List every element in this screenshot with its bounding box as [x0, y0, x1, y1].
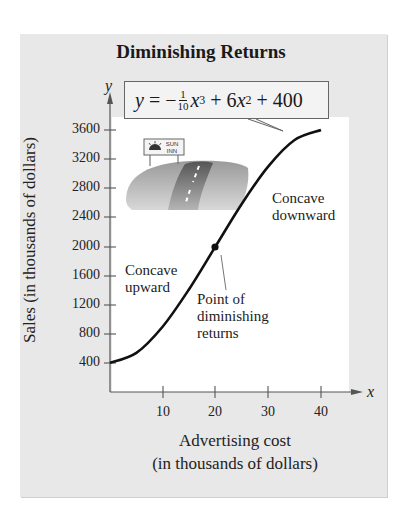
y-tick-label: 3200 [50, 150, 100, 166]
plot-background [112, 117, 349, 392]
inflection-point-marker [211, 243, 218, 250]
annotation-point-of-diminishing-returns: Point of diminishing returns [197, 291, 269, 342]
sign-text-inn: INN [167, 148, 177, 154]
x-axis-symbol: x [367, 383, 374, 400]
y-tick-label: 2000 [50, 238, 100, 254]
fraction-numerator: 1 [179, 89, 187, 101]
sign-text-sun: SUN [166, 141, 179, 147]
x-tick-label: 40 [306, 404, 336, 420]
y-axis-symbol: y [105, 77, 112, 94]
equation-box: y = − 1 10 x3 + 6x2 + 400 [124, 81, 329, 119]
annotation-line: diminishing [197, 308, 269, 325]
annotation-concave-upward: Concave upward [125, 262, 177, 296]
y-axis-label: Sales (in thousands of dollars) [20, 137, 40, 343]
annotation-line: returns [197, 325, 269, 342]
x-axis-label-text1: Advertising cost [179, 431, 291, 451]
x-axis-label-text2: (in thousands of dollars) [152, 454, 318, 474]
equation-rest: + 400 [252, 89, 303, 112]
x-axis-arrow-icon [351, 389, 363, 395]
annotation-line: upward [125, 279, 177, 296]
x-tick-label: 10 [148, 404, 178, 420]
y-tick-label: 400 [50, 354, 100, 370]
y-tick-label: 1600 [50, 267, 100, 283]
y-tick-label: 3600 [50, 121, 100, 137]
annotation-line: downward [272, 207, 335, 224]
equation-term2: x [237, 89, 246, 112]
y-tick-label: 800 [50, 325, 100, 341]
equation-lhs: y [135, 89, 144, 112]
x-tick-label: 30 [253, 404, 283, 420]
y-tick-label: 2400 [50, 208, 100, 224]
annotation-concave-downward: Concave downward [272, 190, 335, 224]
x-tick-label: 20 [200, 404, 230, 420]
fraction-denominator: 10 [177, 101, 188, 112]
annotation-line: Point of [197, 291, 269, 308]
y-tick-label: 1200 [50, 296, 100, 312]
annotation-line: Concave [125, 262, 177, 279]
equation-equals-minus: = − [144, 89, 177, 112]
y-tick-label: 2800 [50, 179, 100, 195]
equation-term1: x [190, 89, 199, 112]
equation-fraction: 1 10 [177, 89, 188, 112]
equation-plus1: + 6 [205, 89, 236, 112]
annotation-line: Concave [272, 190, 335, 207]
